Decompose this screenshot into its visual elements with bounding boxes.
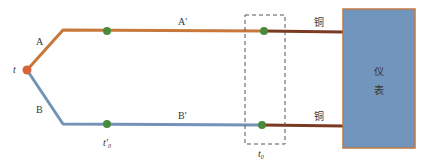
instrument-box bbox=[343, 9, 415, 148]
node-a-mid-dot bbox=[103, 27, 111, 35]
wire-a bbox=[27, 30, 264, 70]
wire-b-ext-label: B' bbox=[178, 110, 187, 121]
wire-b-label: B bbox=[36, 104, 43, 115]
copper-top-label: 铜 bbox=[314, 17, 324, 28]
instrument-label-line2: 表 bbox=[374, 84, 384, 96]
copper-wire-bottom bbox=[262, 125, 344, 126]
hot-junction-label: t bbox=[13, 64, 16, 75]
copper-wire-top bbox=[264, 31, 344, 32]
ref-temp-label: t0 bbox=[258, 148, 264, 160]
hot-junction-dot bbox=[23, 66, 32, 75]
ref-temp-sub: 0 bbox=[261, 154, 264, 160]
instrument-label-line1: 仪 bbox=[374, 66, 384, 77]
ref-temp-prime-sub: 0 bbox=[108, 143, 111, 149]
wire-a-label: A bbox=[36, 36, 44, 47]
wire-a-ext-label: A' bbox=[178, 16, 187, 27]
node-b-cold-dot bbox=[258, 121, 266, 129]
thermocouple-diagram: t A A' B B' t'0 t0 铜 铜 仪 表 bbox=[0, 0, 426, 167]
ref-temp-prime-label: t'0 bbox=[103, 137, 111, 149]
copper-bottom-label: 铜 bbox=[314, 111, 324, 122]
wire-b bbox=[27, 70, 262, 125]
node-b-mid-dot bbox=[103, 120, 111, 128]
node-a-cold-dot bbox=[260, 27, 268, 35]
